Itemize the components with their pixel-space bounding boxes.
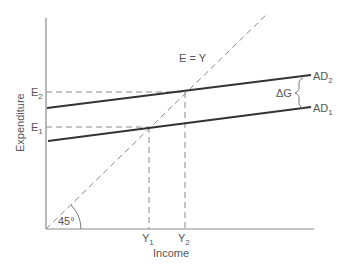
e2-tick-label: E2 (31, 86, 43, 101)
e-equals-y-label: E = Y (179, 52, 207, 64)
e1-tick-label: E1 (31, 121, 43, 136)
keynesian-cross-diagram: E = Y 45° ΔG AD2 AD1 E2 E1 Y1 Y2 Income … (0, 0, 341, 270)
delta-g-label: ΔG (276, 87, 292, 99)
forty-five-degree-line (46, 14, 267, 229)
delta-g-brace (295, 78, 303, 108)
angle-label: 45° (58, 215, 75, 227)
ad1-line (48, 107, 311, 141)
diagram-svg: E = Y 45° ΔG AD2 AD1 E2 E1 Y1 Y2 Income … (0, 0, 341, 270)
x-axis-label: Income (153, 247, 189, 259)
ad2-label: AD2 (313, 70, 333, 85)
y1-tick-label: Y1 (142, 232, 154, 247)
ad1-label: AD1 (313, 102, 333, 117)
y-axis-label: Expenditure (14, 93, 26, 152)
y2-tick-label: Y2 (178, 232, 190, 247)
